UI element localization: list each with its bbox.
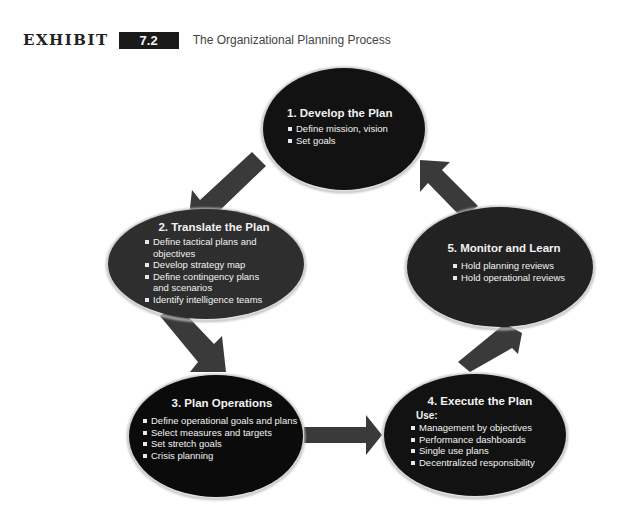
node-item: Hold operational reviews	[452, 272, 564, 284]
node-title: 1. Develop the Plan	[287, 107, 412, 119]
node-develop-plan: 1. Develop the Plan Define mission, visi…	[287, 107, 412, 146]
node-item: Decentralized responsibility	[410, 457, 550, 469]
node-item: Set goals	[287, 135, 412, 147]
arrow-3-to-4	[304, 415, 382, 455]
node-items: Management by objectives Performance das…	[410, 422, 550, 468]
node-subheading: Use:	[416, 410, 550, 421]
node-item: Set stretch goals	[142, 438, 302, 450]
node-item: Hold planning reviews	[452, 260, 564, 272]
node-item: Define mission, vision	[287, 123, 412, 135]
node-plan-operations: 3. Plan Operations Define operational go…	[142, 397, 302, 461]
node-item-continued: objectives	[144, 248, 284, 260]
node-translate-plan: 2. Translate the Plan Define tactical pl…	[144, 221, 284, 305]
node-items: Hold planning reviews Hold operational r…	[452, 260, 564, 283]
node-item: Single use plans	[410, 445, 550, 457]
node-title: 5. Monitor and Learn	[444, 242, 564, 254]
node-item-continued: and scenarios	[144, 282, 284, 294]
node-item: Select measures and targets	[142, 427, 302, 439]
node-item: Performance dashboards	[410, 434, 550, 446]
node-item: Identify intelligence teams	[144, 294, 284, 306]
node-title: 2. Translate the Plan	[144, 221, 284, 233]
node-execute-plan: 4. Execute the Plan Use: Management by o…	[410, 395, 550, 468]
node-item: Define contingency plans	[144, 271, 284, 283]
node-item: Define tactical plans and	[144, 236, 284, 248]
node-item: Management by objectives	[410, 422, 550, 434]
node-item: Crisis planning	[142, 450, 302, 462]
node-item: Define operational goals and plans	[142, 415, 302, 427]
node-items: Define operational goals and plans Selec…	[142, 415, 302, 461]
node-items: Define mission, vision Set goals	[287, 123, 412, 146]
node-items: Define tactical plans and objectives Dev…	[144, 236, 284, 305]
node-title: 4. Execute the Plan	[410, 395, 550, 407]
node-title: 3. Plan Operations	[142, 397, 302, 409]
node-item: Develop strategy map	[144, 259, 284, 271]
node-monitor-learn: 5. Monitor and Learn Hold planning revie…	[444, 242, 564, 283]
